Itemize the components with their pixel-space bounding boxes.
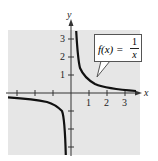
function-graph (0, 0, 158, 161)
y-axis-arrow-icon (69, 19, 74, 26)
x-tick-label-3: 3 (122, 98, 127, 108)
fraction-denominator: x (130, 50, 139, 60)
function-label-text: f(x) = (98, 43, 123, 55)
x-tick-label-2: 2 (104, 98, 109, 108)
y-tick-label-2: 2 (60, 52, 65, 62)
y-axis-label: y (67, 10, 71, 20)
function-label-callout: f(x) = 1 x (94, 34, 142, 62)
fraction-numerator: 1 (130, 37, 139, 47)
x-axis-label: x (144, 88, 148, 98)
function-fraction: 1 x (130, 37, 139, 60)
y-tick-label-1: 1 (60, 70, 65, 80)
x-tick-label-1: 1 (86, 98, 91, 108)
y-tick-label-3: 3 (60, 34, 65, 44)
